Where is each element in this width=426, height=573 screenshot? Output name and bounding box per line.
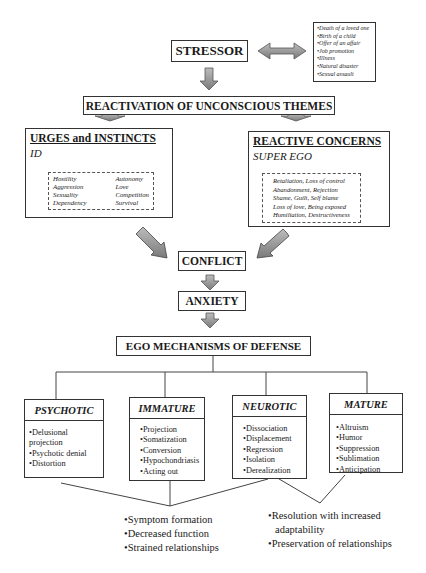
list-item: •Humor <box>336 433 402 443</box>
reactive-dashed-box: Retaliation, Loss of control Abandonment… <box>262 173 361 223</box>
list-item: •Resolution with increased <box>268 509 392 523</box>
ego-label: EGO MECHANISMS OF DEFENSE <box>126 340 301 352</box>
list-item: Love <box>115 183 149 191</box>
list-item: •Natural disaster <box>317 63 372 71</box>
ego-mechanisms-box: EGO MECHANISMS OF DEFENSE <box>116 336 311 356</box>
urges-box: URGES and INSTINCTS ID Hostility Aggress… <box>25 128 173 218</box>
list-item: Loss of love, Being exposed <box>273 203 350 212</box>
defense-title: IMMATURE <box>130 398 204 419</box>
list-item: •Isolation <box>243 455 306 465</box>
list-item: •Projection <box>140 425 204 435</box>
urges-title: URGES and INSTINCTS <box>30 132 172 144</box>
urges-dashed-box: Hostility Aggression Sexuality Dependenc… <box>48 172 154 210</box>
list-item: Shame, Guilt, Self blame <box>273 194 350 203</box>
stressor-examples-box: •Death of a loved one •Birth of a child … <box>313 22 376 82</box>
list-item: •Decreased function <box>124 527 219 541</box>
list-item: •Anticipation <box>336 465 402 475</box>
list-item: Hostility <box>53 175 87 183</box>
list-item: •Sexual assault <box>317 71 372 79</box>
list-item: •Conversion <box>140 446 204 456</box>
list-item: •Displacement <box>243 434 306 444</box>
list-item: •Preservation of relationships <box>268 537 392 551</box>
list-item: •Regression <box>243 445 306 455</box>
stressor-box: STRESSOR <box>171 40 248 62</box>
list-item: •Death of a loved one <box>317 25 372 33</box>
list-item: adaptability <box>268 523 392 537</box>
list-item: •Delusional projection <box>29 428 103 449</box>
list-item: •Altruism <box>336 423 402 433</box>
reactivation-label: REACTIVATION OF UNCONSCIOUS THEMES <box>86 100 333 112</box>
list-item: •Somatization <box>140 435 204 445</box>
stressor-label: STRESSOR <box>176 43 244 59</box>
reactive-title: REACTIVE CONCERNS <box>253 135 389 147</box>
defense-box-immature: IMMATURE •Projection •Somatization •Conv… <box>129 397 205 481</box>
list-item: •Dissociation <box>243 424 306 434</box>
negative-outcomes: •Symptom formation •Decreased function •… <box>124 513 219 555</box>
list-item: •Distortion <box>29 459 103 469</box>
conflict-box: CONFLICT <box>178 251 246 271</box>
list-item: Competition <box>115 191 149 199</box>
list-item: •Derealization <box>243 466 306 476</box>
list-item: •Birth of a child <box>317 33 372 41</box>
positive-outcomes: •Resolution with increased adaptability … <box>268 509 392 551</box>
connectors <box>0 0 426 573</box>
defense-box-mature: MATURE •Altruism •Humor •Suppression •Su… <box>329 393 403 473</box>
reactive-subtitle: SUPER EGO <box>253 150 389 162</box>
list-item: •Job promotion <box>317 48 372 56</box>
list-item: •Illness <box>317 55 372 63</box>
defense-box-psychotic: PSYCHOTIC •Delusional projection •Psycho… <box>24 399 104 478</box>
urges-subtitle: ID <box>30 147 172 159</box>
list-item: •Sublimation <box>336 454 402 464</box>
defense-title: PSYCHOTIC <box>25 400 103 421</box>
list-item: Dependency <box>53 199 87 207</box>
defense-title: MATURE <box>330 394 402 415</box>
list-item: •Psychotic denial <box>29 449 103 459</box>
list-item: Retaliation, Loss of control <box>273 177 350 186</box>
list-item: •Acting out <box>140 467 204 477</box>
list-item: Sexuality <box>53 191 87 199</box>
list-item: •Strained relationships <box>124 541 219 555</box>
list-item: Humiliation, Destructiveness <box>273 211 350 220</box>
defense-box-neurotic: NEUROTIC •Dissociation •Displacement •Re… <box>232 395 307 479</box>
anxiety-box: ANXIETY <box>178 291 246 311</box>
defense-title: NEUROTIC <box>233 396 306 417</box>
reactive-concerns-box: REACTIVE CONCERNS SUPER EGO Retaliation,… <box>248 131 390 227</box>
list-item: Aggression <box>53 183 87 191</box>
list-item: •Offer of an affair <box>317 40 372 48</box>
list-item: •Hypochondriasis <box>140 456 204 466</box>
conflict-label: CONFLICT <box>182 255 243 267</box>
list-item: •Symptom formation <box>124 513 219 527</box>
reactivation-box: REACTIVATION OF UNCONSCIOUS THEMES <box>83 96 335 115</box>
list-item: Survival <box>115 199 149 207</box>
anxiety-label: ANXIETY <box>185 295 238 307</box>
list-item: Abandonment, Rejection <box>273 186 350 195</box>
double-arrow-icon <box>258 43 306 59</box>
list-item: Autonomy <box>115 175 149 183</box>
list-item: •Suppression <box>336 444 402 454</box>
down-arrow-icon <box>200 68 218 90</box>
